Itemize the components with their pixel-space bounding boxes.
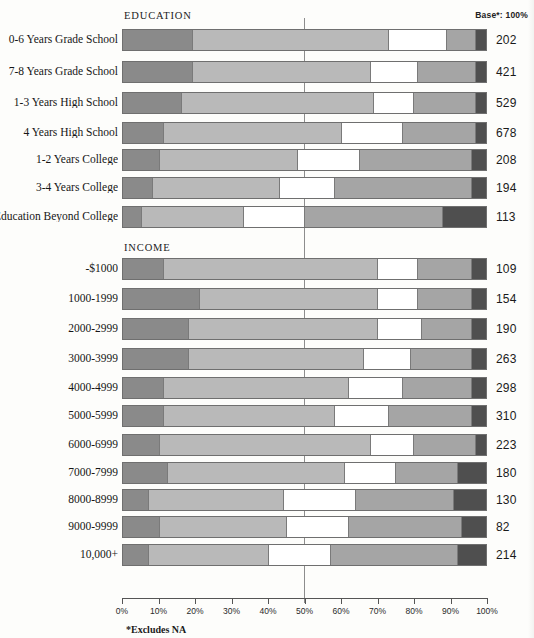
bar-segment-4 — [446, 30, 475, 50]
chart-row: 7-8 Years Grade School421 — [0, 61, 534, 83]
bar-segment-1 — [123, 289, 199, 309]
row-label: 4 Years High School — [0, 126, 118, 138]
chart-row: 4 Years High School678 — [0, 122, 534, 144]
axis-tick — [268, 598, 269, 604]
row-base-value: 113 — [496, 210, 516, 224]
bar-segment-2 — [148, 545, 268, 565]
stacked-bar-chart: EDUCATION INCOME Base*: 100% 0-6 Years G… — [0, 0, 534, 638]
stacked-bar — [122, 377, 487, 399]
stacked-bar — [122, 288, 487, 310]
row-base-value: 678 — [496, 126, 517, 140]
axis-tick-label: 90% — [442, 606, 459, 616]
row-label: 2000-2999 — [0, 322, 118, 334]
stacked-bar — [122, 544, 487, 566]
chart-row: 1-2 Years College208 — [0, 149, 534, 171]
axis-tick — [122, 598, 123, 604]
bar-segment-5 — [442, 207, 486, 227]
bar-segment-2 — [192, 62, 370, 82]
axis-tick-label: 10% — [150, 606, 167, 616]
bar-segment-5 — [475, 123, 486, 143]
bar-segment-3 — [348, 378, 402, 398]
bar-segment-4 — [410, 349, 472, 369]
bar-segment-1 — [123, 93, 181, 113]
bar-segment-3 — [243, 207, 305, 227]
axis-tick — [305, 598, 306, 604]
row-label: 7000-7999 — [0, 466, 118, 478]
bar-segment-1 — [123, 62, 192, 82]
row-base-value: 130 — [496, 493, 517, 507]
stacked-bar — [122, 206, 487, 228]
bar-segment-5 — [457, 463, 486, 483]
chart-row: 7000-7999180 — [0, 462, 534, 484]
axis-tick — [378, 598, 379, 604]
row-label: 3-4 Years College — [0, 181, 118, 193]
bar-segment-5 — [471, 349, 486, 369]
bar-segment-4 — [402, 123, 475, 143]
bar-segment-2 — [181, 93, 373, 113]
bar-segment-5 — [471, 406, 486, 426]
axis-tick — [341, 598, 342, 604]
bar-segment-2 — [167, 463, 345, 483]
bar-segment-5 — [453, 490, 486, 510]
bar-segment-3 — [377, 319, 421, 339]
section-heading-education: EDUCATION — [124, 10, 192, 21]
chart-row: 9000-999982 — [0, 516, 534, 538]
row-label: 3000-3999 — [0, 352, 118, 364]
stacked-bar — [122, 177, 487, 199]
row-base-value: 202 — [496, 33, 517, 47]
axis-tick — [195, 598, 196, 604]
bar-segment-5 — [471, 289, 486, 309]
row-base-value: 214 — [496, 548, 517, 562]
chart-row: 3-4 Years College194 — [0, 177, 534, 199]
stacked-bar — [122, 405, 487, 427]
row-label: 7-8 Years Grade School — [0, 65, 118, 77]
stacked-bar — [122, 92, 487, 114]
bar-segment-1 — [123, 259, 163, 279]
bar-segment-3 — [286, 517, 348, 537]
bar-segment-1 — [123, 319, 188, 339]
chart-row: 1000-1999154 — [0, 288, 534, 310]
bar-segment-5 — [475, 435, 486, 455]
bar-segment-2 — [188, 349, 362, 369]
stacked-bar — [122, 434, 487, 456]
row-label: 4000-4999 — [0, 381, 118, 393]
row-label: Education Beyond College — [0, 210, 118, 222]
bar-segment-3 — [388, 30, 446, 50]
bar-segment-3 — [344, 463, 395, 483]
bar-segment-1 — [123, 490, 148, 510]
chart-row: 2000-2999190 — [0, 318, 534, 340]
bar-segment-4 — [413, 435, 475, 455]
bar-segment-2 — [163, 406, 334, 426]
bar-segment-4 — [359, 150, 472, 170]
row-base-value: 82 — [496, 520, 510, 534]
stacked-bar — [122, 61, 487, 83]
axis-tick — [159, 598, 160, 604]
bar-segment-2 — [148, 490, 282, 510]
chart-row: 1-3 Years High School529 — [0, 92, 534, 114]
axis-tick-label: 0% — [116, 606, 128, 616]
axis-tick — [232, 598, 233, 604]
chart-row: 0-6 Years Grade School202 — [0, 29, 534, 51]
axis-tick-label: 70% — [369, 606, 386, 616]
axis-tick-label: 80% — [405, 606, 422, 616]
bar-segment-5 — [471, 259, 486, 279]
bar-segment-5 — [457, 545, 486, 565]
bar-segment-5 — [461, 517, 486, 537]
axis-tick — [451, 598, 452, 604]
bar-segment-1 — [123, 378, 163, 398]
row-label: 6000-6999 — [0, 438, 118, 450]
bar-segment-4 — [395, 463, 457, 483]
bar-segment-3 — [334, 406, 388, 426]
bar-segment-2 — [163, 123, 341, 143]
bar-segment-3 — [377, 289, 417, 309]
base-column-header: Base*: 100% — [475, 10, 528, 20]
stacked-bar — [122, 489, 487, 511]
bar-segment-1 — [123, 123, 163, 143]
bar-segment-4 — [304, 207, 442, 227]
bar-segment-3 — [283, 490, 356, 510]
axis-tick-label: 20% — [186, 606, 203, 616]
bar-segment-2 — [159, 150, 297, 170]
section-heading-income: INCOME — [124, 242, 171, 253]
bar-segment-2 — [188, 319, 377, 339]
axis-tick-label: 100% — [476, 606, 498, 616]
